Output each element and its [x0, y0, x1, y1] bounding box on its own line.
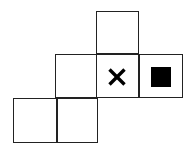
cube-net-figure — [0, 0, 196, 155]
net-cell-middle-square-left — [56, 55, 97, 98]
filled-square-mark-icon — [151, 67, 171, 87]
net-cell-bottom-square-right — [58, 99, 98, 143]
net-cell-bottom-square-left — [14, 99, 57, 143]
net-drawing — [0, 0, 196, 155]
net-cell-top-square — [97, 12, 139, 54]
